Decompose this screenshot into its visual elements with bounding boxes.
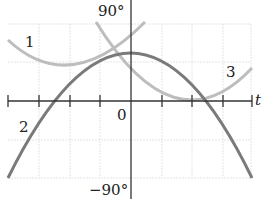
curve-3 bbox=[96, 22, 252, 100]
y-min-label: −90° bbox=[89, 183, 128, 198]
x-axis-label: t bbox=[255, 93, 261, 108]
curve-2-label: 2 bbox=[19, 120, 29, 135]
chart-plot bbox=[0, 0, 265, 202]
y-max-label: 90° bbox=[98, 4, 125, 19]
curve-3-label: 3 bbox=[226, 65, 236, 80]
curve-1-label: 1 bbox=[25, 35, 35, 50]
origin-label: 0 bbox=[117, 108, 127, 123]
x-axis bbox=[8, 95, 252, 107]
curve-2 bbox=[8, 53, 252, 178]
